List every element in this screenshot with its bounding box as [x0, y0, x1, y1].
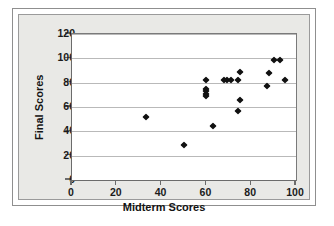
- x-tick-mark-80: [250, 180, 251, 185]
- figure-outer-border: Final Scores 020406080100120 02040608010…: [12, 8, 316, 206]
- gridline-y-40: [72, 131, 296, 132]
- x-tick-mark-40: [160, 180, 161, 185]
- x-axis-title: Midterm Scores: [19, 201, 309, 213]
- x-tick-label-20: 20: [110, 186, 122, 198]
- x-tick-mark-60: [205, 180, 206, 185]
- gridline-y-20: [72, 156, 296, 157]
- figure-inner-panel: Final Scores 020406080100120 02040608010…: [18, 14, 310, 200]
- x-tick-mark-100: [294, 180, 295, 185]
- data-point: [234, 107, 241, 114]
- x-tick-label-0: 0: [68, 186, 74, 198]
- x-tick-label-40: 40: [155, 186, 167, 198]
- figure-root: Final Scores 020406080100120 02040608010…: [0, 0, 334, 226]
- x-tick-label-60: 60: [200, 186, 212, 198]
- data-point: [266, 69, 273, 76]
- data-point: [263, 83, 270, 90]
- y-axis-title: Final Scores: [33, 75, 45, 140]
- data-point: [277, 56, 284, 63]
- x-tick-label-80: 80: [244, 186, 256, 198]
- gridline-y-100: [72, 58, 296, 59]
- data-point: [236, 68, 243, 75]
- data-point: [210, 123, 217, 130]
- data-point: [180, 141, 187, 148]
- gridline-y-120: [72, 34, 296, 35]
- x-tick-mark-20: [115, 180, 116, 185]
- x-tick-label-100: 100: [286, 186, 304, 198]
- gridline-y-60: [72, 107, 296, 108]
- scatter-plot-area: [71, 33, 297, 181]
- data-point: [236, 96, 243, 103]
- data-point: [142, 113, 149, 120]
- x-tick-mark-0: [70, 180, 71, 185]
- gridline-y-80: [72, 83, 296, 84]
